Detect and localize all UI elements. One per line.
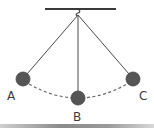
label-c: C (139, 89, 147, 103)
bob-c (126, 72, 140, 86)
string-a (27, 15, 78, 74)
bob-a (16, 72, 30, 86)
string-c (78, 15, 129, 74)
label-a: A (7, 89, 16, 103)
bottom-divider (0, 124, 154, 128)
label-b: B (73, 110, 81, 124)
pendulum-diagram: A B C (0, 0, 154, 128)
bob-b (71, 91, 85, 105)
